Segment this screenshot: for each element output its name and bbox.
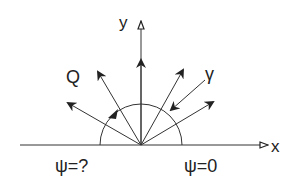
arrow-left-low (68, 103, 141, 145)
arrow-right-high (141, 70, 183, 145)
gamma-incoming-arrow (171, 80, 205, 110)
y-axis-label: y (119, 13, 128, 32)
arrow-right-low (141, 102, 213, 145)
arc-arrowhead (108, 109, 118, 119)
arrow-left-high (98, 72, 141, 145)
x-axis-label: x (271, 137, 280, 156)
psi-right-label: ψ=0 (184, 156, 217, 176)
angular-distribution-diagram: x y Q γ ψ=? ψ=0 (0, 0, 298, 187)
gamma-label: γ (205, 64, 214, 84)
psi-left-label: ψ=? (55, 156, 88, 176)
q-label: Q (66, 67, 80, 87)
